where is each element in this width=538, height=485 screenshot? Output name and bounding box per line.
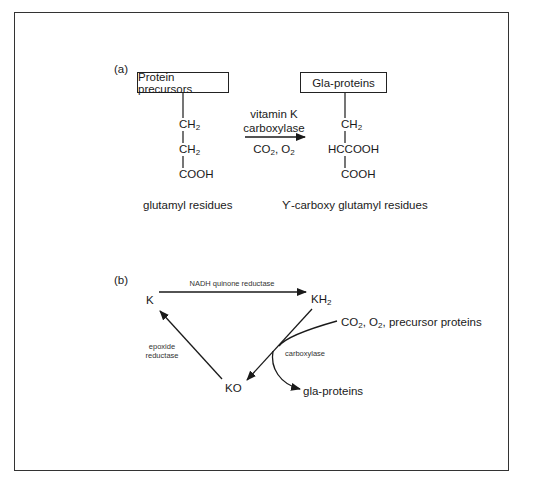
left-ch2-2: CH2 xyxy=(179,144,200,156)
enzyme-nadh-quinone-reductase: NADH quinone reductase xyxy=(189,280,274,288)
inputs-label: CO2, O2, precursor proteins xyxy=(341,317,482,329)
gla-proteins-box: Gla-proteins xyxy=(300,72,387,93)
left-ch2-1: CH2 xyxy=(179,119,200,131)
caption-gamma-carboxy: ϒ-carboxy glutamyl residues xyxy=(282,200,428,212)
left-cooh: COOH xyxy=(179,169,214,181)
right-ch2: CH2 xyxy=(341,119,362,131)
enzyme-carboxylase-b: carboxylase xyxy=(285,350,325,358)
node-ko: KO xyxy=(225,383,242,395)
protein-precursors-box: Protein precursors xyxy=(137,72,229,93)
output-gla-proteins: gla-proteins xyxy=(303,386,363,398)
enzyme-epoxide: epoxide xyxy=(149,343,175,351)
diagram-lines xyxy=(0,0,538,485)
right-cooh: COOH xyxy=(341,169,376,181)
panel-a-label: (a) xyxy=(114,64,128,76)
enzyme-vitamin-k: vitamin K xyxy=(250,109,297,121)
panel-b-label: (b) xyxy=(114,275,128,287)
enzyme-carboxylase: carboxylase xyxy=(243,123,304,135)
cofactors-co2-o2: CO2, O2 xyxy=(253,144,295,156)
node-kh2: KH2 xyxy=(311,294,331,306)
right-hccooh: HCCOOH xyxy=(328,144,379,156)
enzyme-reductase: reductase xyxy=(146,352,179,360)
caption-glutamyl-residues: glutamyl residues xyxy=(143,200,232,212)
protein-precursors-label: Protein precursors xyxy=(138,71,228,95)
inputs-curve xyxy=(279,321,337,346)
gla-proteins-label: Gla-proteins xyxy=(312,77,375,89)
node-k: K xyxy=(146,295,154,307)
